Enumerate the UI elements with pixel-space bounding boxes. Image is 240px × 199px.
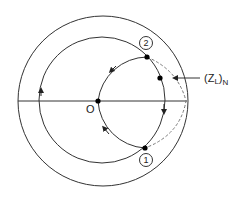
origin-label: O [86, 104, 95, 115]
zl-label: (ZL)N [204, 73, 228, 87]
point-2 [144, 54, 149, 59]
point-1-label: 1 [139, 153, 153, 167]
point-1 [142, 145, 147, 150]
inner-arc [98, 57, 147, 148]
zl-main: (Z [204, 72, 214, 84]
dashed-arc [145, 57, 186, 148]
point-2-label: 2 [139, 36, 153, 50]
zl-norm: N [223, 78, 229, 87]
point-zl [157, 75, 162, 80]
smith-chart-diagram [0, 0, 240, 199]
point-origin [95, 98, 100, 103]
